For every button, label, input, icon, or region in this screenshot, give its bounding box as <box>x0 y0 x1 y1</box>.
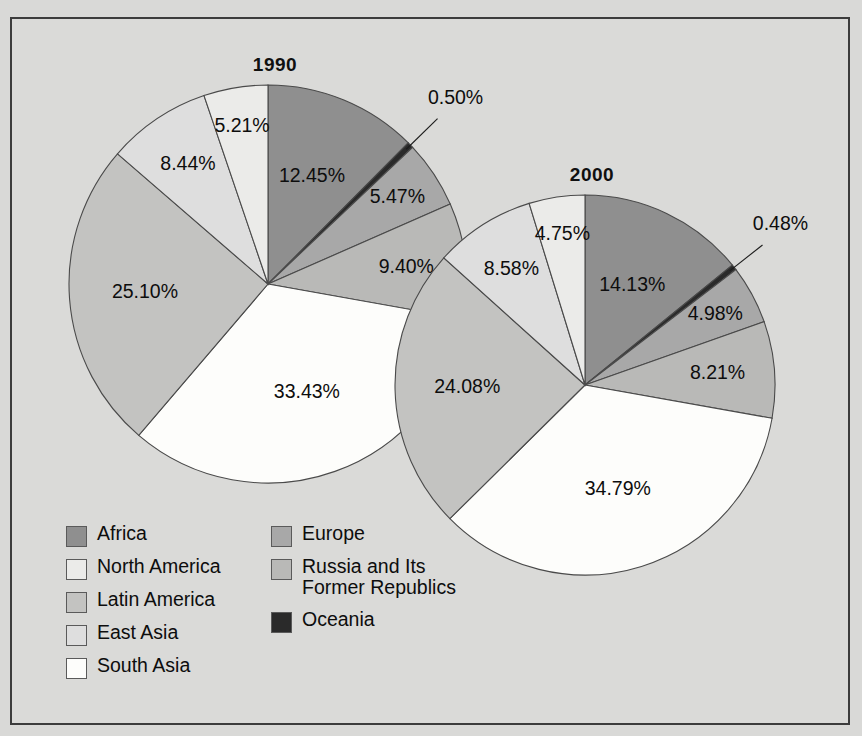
legend-item: South Asia <box>66 655 221 688</box>
pie-title-1990: 1990 <box>253 54 297 75</box>
legend-item: East Asia <box>66 622 221 655</box>
legend-swatch <box>271 559 292 580</box>
legend-item: Oceania <box>271 609 456 642</box>
slice-label-russia: 9.40% <box>379 255 434 277</box>
legend-label: East Asia <box>97 622 178 643</box>
leader-line-oceania <box>730 245 763 271</box>
slice-label-oceania: 0.48% <box>753 212 808 234</box>
legend-swatch <box>271 612 292 633</box>
slice-label-east-asia: 8.44% <box>160 152 215 174</box>
legend-label: Africa <box>97 523 147 544</box>
legend-swatch <box>66 592 87 613</box>
slice-label-africa: 14.13% <box>599 273 665 295</box>
legend-label: Latin America <box>97 589 215 610</box>
slice-label-east-asia: 8.58% <box>484 257 539 279</box>
slice-label-south-asia: 34.79% <box>585 477 651 499</box>
legend-label: Russia and Its Former Republics <box>302 556 456 598</box>
slice-label-latin-america: 24.08% <box>434 375 500 397</box>
slice-label-north-america: 5.21% <box>214 114 269 136</box>
legend-item: Europe <box>271 523 456 556</box>
legend-item: Africa <box>66 523 221 556</box>
slice-label-north-america: 4.75% <box>535 222 590 244</box>
legend-swatch <box>271 526 292 547</box>
slice-label-latin-america: 25.10% <box>112 280 178 302</box>
legend-label: Europe <box>302 523 365 544</box>
slice-label-europe: 4.98% <box>688 302 743 324</box>
legend-item: North America <box>66 556 221 589</box>
legend-swatch <box>66 559 87 580</box>
pie-title-2000: 2000 <box>570 164 614 185</box>
slice-label-africa: 12.45% <box>279 164 345 186</box>
legend-swatch <box>66 658 87 679</box>
chart-legend: AfricaNorth AmericaLatin AmericaEast Asi… <box>66 523 486 693</box>
legend-label: North America <box>97 556 221 577</box>
legend-swatch <box>66 526 87 547</box>
slice-label-south-asia: 33.43% <box>274 380 340 402</box>
leader-line-oceania <box>406 119 437 150</box>
legend-swatch <box>66 625 87 646</box>
slice-label-oceania: 0.50% <box>428 86 483 108</box>
slice-label-europe: 5.47% <box>370 185 425 207</box>
legend-label: South Asia <box>97 655 190 676</box>
legend-item: Latin America <box>66 589 221 622</box>
legend-item: Russia and Its Former Republics <box>271 556 456 609</box>
legend-label: Oceania <box>302 609 375 630</box>
legend-column-right: EuropeRussia and Its Former RepublicsOce… <box>271 523 456 642</box>
legend-column-left: AfricaNorth AmericaLatin AmericaEast Asi… <box>66 523 221 688</box>
slice-label-russia: 8.21% <box>690 361 745 383</box>
